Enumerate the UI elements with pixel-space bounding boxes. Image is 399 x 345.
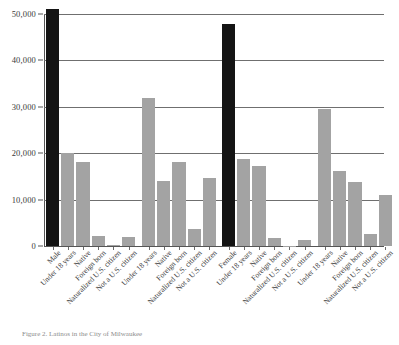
- y-axis-tick-label: 0: [32, 241, 36, 251]
- bar: [172, 162, 185, 246]
- x-axis-labels: MaleUnder 18 yearsNativeForeign bornNatu…: [44, 247, 384, 317]
- figure-caption: Figure 2. Latinos in the City of Milwauk…: [22, 330, 382, 339]
- bar: [157, 181, 170, 246]
- bar: [252, 166, 265, 246]
- bar: [237, 159, 250, 246]
- bar: [283, 246, 296, 247]
- plot-area: [44, 14, 384, 246]
- bar: [348, 182, 361, 246]
- y-axis-tick-label: 10,000: [12, 195, 36, 205]
- bar: [122, 237, 135, 246]
- y-axis-tick-mark: [38, 199, 43, 200]
- y-axis-tick-label: 20,000: [12, 148, 36, 158]
- bar: [222, 24, 235, 246]
- bars-layer: [44, 14, 384, 246]
- bar: [188, 229, 201, 246]
- bar: [61, 153, 74, 246]
- y-axis-tick-label: 30,000: [12, 102, 36, 112]
- bar: [318, 109, 331, 246]
- bar: [268, 238, 281, 246]
- y-axis-tick-label: 40,000: [12, 55, 36, 65]
- bar: [298, 240, 311, 246]
- bar: [46, 9, 59, 246]
- bar: [76, 162, 89, 246]
- y-axis-tick-label: 50,000: [12, 9, 36, 19]
- y-axis-tick-mark: [38, 14, 43, 15]
- y-axis-tick-mark: [38, 106, 43, 107]
- bar: [142, 98, 155, 246]
- y-axis-labels: 010,00020,00030,00040,00050,000: [0, 0, 44, 260]
- bar: [107, 245, 120, 246]
- figure-container: 010,00020,00030,00040,00050,000 MaleUnde…: [0, 0, 399, 345]
- y-axis-tick-mark: [38, 153, 43, 154]
- y-axis-tick-mark: [38, 246, 43, 247]
- y-axis-tick-mark: [38, 60, 43, 61]
- bar: [379, 195, 392, 247]
- bar: [92, 236, 105, 246]
- bar: [364, 234, 377, 246]
- bar: [203, 178, 216, 246]
- bar: [333, 171, 346, 246]
